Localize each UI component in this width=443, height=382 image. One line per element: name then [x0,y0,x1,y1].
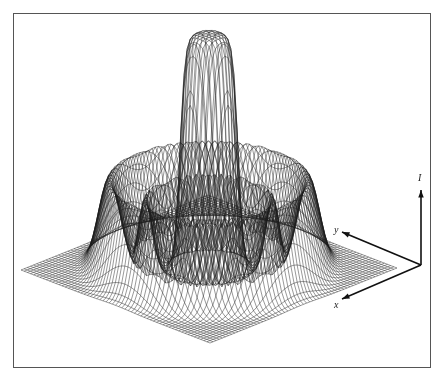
axis-label-x: x [334,299,338,310]
axis-label-y: y [334,224,338,235]
axis-label-intensity: I [418,172,421,183]
surface-wireframe-plot [0,0,443,382]
